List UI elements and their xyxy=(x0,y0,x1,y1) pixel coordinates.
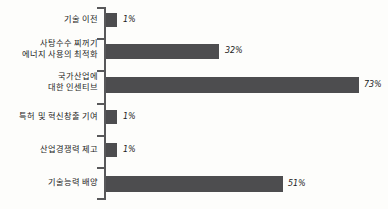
bar-segment[interactable] xyxy=(106,176,283,192)
bar-value-label: 73% xyxy=(364,80,381,89)
bar-chart: 기술 이전 1% 사탕수수 찌꺼기 에너지 사용의 최적화 32% 국가산업에 … xyxy=(0,0,388,209)
axis-tick-bottom xyxy=(97,198,104,200)
axis-tick-1 xyxy=(97,38,104,40)
bar-segment[interactable] xyxy=(106,110,117,124)
category-axis-line xyxy=(104,7,106,200)
axis-tick-5 xyxy=(97,167,104,169)
category-label: 특허 및 혁신창출 기여 xyxy=(0,111,98,122)
axis-tick-top xyxy=(97,7,104,9)
plot-area: 기술 이전 1% 사탕수수 찌꺼기 에너지 사용의 최적화 32% 국가산업에 … xyxy=(0,0,388,209)
axis-tick-4 xyxy=(97,135,104,137)
bar-value-label: 1% xyxy=(123,112,136,121)
category-label: 사탕수수 찌꺼기 에너지 사용의 최적화 xyxy=(0,38,98,59)
bar-segment[interactable] xyxy=(106,77,359,93)
bar-segment[interactable] xyxy=(106,13,117,27)
bar-segment[interactable] xyxy=(106,44,219,59)
category-label: 기술능력 배양 xyxy=(0,177,98,188)
bar-value-label: 32% xyxy=(225,46,242,55)
bar-value-label: 51% xyxy=(288,179,305,188)
category-label: 산업경쟁력 제고 xyxy=(0,144,98,155)
axis-tick-3 xyxy=(97,103,104,105)
bar-value-label: 1% xyxy=(123,145,136,154)
category-label: 기술 이전 xyxy=(0,14,98,25)
bar-value-label: 1% xyxy=(123,15,136,24)
bar-segment[interactable] xyxy=(106,143,117,157)
category-label: 국가산업에 대한 인센티브 xyxy=(0,71,98,92)
axis-tick-2 xyxy=(97,70,104,72)
